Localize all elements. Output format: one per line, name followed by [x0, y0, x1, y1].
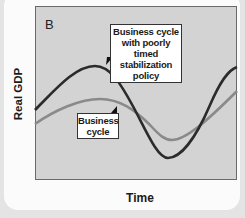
policy-callout-line-1: Business cycle [111, 26, 181, 37]
x-axis-label: Time [118, 191, 162, 205]
cycle-callout: Business cycle [77, 113, 119, 139]
policy-callout-line-2: with poorly timed [111, 37, 181, 59]
cycle-callout-line-1: Business [78, 115, 118, 126]
cycle-callout-pointer [111, 106, 117, 113]
panel-letter: B [45, 17, 54, 32]
y-axis-label: Real GDP [12, 66, 24, 122]
policy-callout-line-3: stabilization policy [111, 59, 181, 81]
cycle-callout-line-2: cycle [78, 126, 118, 137]
policy-callout: Business cycle with poorly timed stabili… [110, 24, 182, 83]
